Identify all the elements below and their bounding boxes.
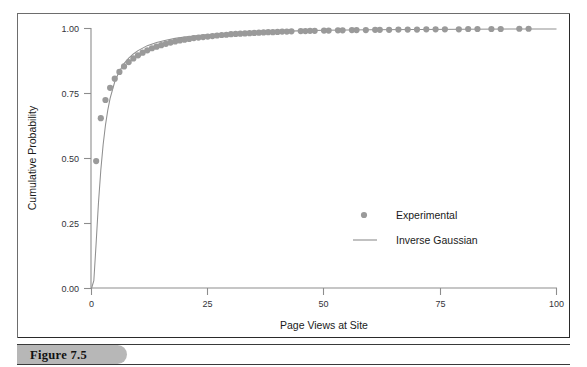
y-axis-title: Cumulative Probability [26,105,38,210]
y-axis-ticks [84,29,91,289]
data-point [98,115,104,121]
data-point [433,26,439,32]
y-tick-label: 0.75 [61,89,79,99]
data-point [498,26,504,32]
x-tick-label: 75 [435,299,445,309]
data-point [414,26,420,32]
x-axis-ticks [92,288,557,295]
x-tick-label: 25 [202,299,212,309]
data-point [465,26,471,32]
data-point [442,26,448,32]
data-point [121,63,127,69]
data-point [474,26,480,32]
x-tick-label: 0 [89,299,94,309]
data-point [93,158,99,164]
legend-marker-experimental-icon [361,212,367,218]
y-tick-label: 0.25 [61,219,79,229]
data-point [488,26,494,32]
x-tick-label: 50 [318,299,328,309]
data-point [456,26,462,32]
legend-label-experimental: Experimental [396,209,457,221]
data-point [363,27,369,33]
data-point [377,27,383,33]
figure-container: 1.00 0.75 0.50 0.25 0.00 0 25 50 75 100 … [0,0,587,367]
legend-label-inverse-gaussian: Inverse Gaussian [396,234,478,246]
data-point [116,69,122,75]
data-point [288,28,294,34]
chart-legend: Experimental Inverse Gaussian [353,209,478,246]
chart-svg: 1.00 0.75 0.50 0.25 0.00 0 25 50 75 100 … [0,0,587,367]
x-axis-title: Page Views at Site [280,319,368,331]
data-point [107,85,113,91]
data-point [386,27,392,33]
figure-caption-label: Figure 7.5 [30,348,87,363]
data-point [395,26,401,32]
x-tick-label: 100 [549,299,564,309]
inverse-gaussian-curve [92,29,557,288]
data-point [423,26,429,32]
data-point [353,27,359,33]
data-point [526,26,532,32]
data-point [340,27,346,33]
data-point [516,26,522,32]
data-point [112,76,118,82]
data-point [405,26,411,32]
experimental-data-points [93,26,532,165]
y-tick-label: 1.00 [61,24,79,34]
data-point [312,28,318,34]
data-point [326,27,332,33]
y-tick-label: 0.50 [61,154,79,164]
data-point [102,97,108,103]
y-tick-label: 0.00 [61,284,79,294]
figure-caption-bar: Figure 7.5 [17,344,570,365]
